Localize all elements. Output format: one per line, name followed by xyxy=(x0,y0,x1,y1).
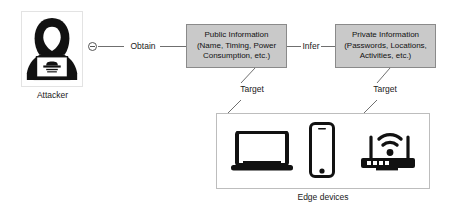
attacker-label: Attacker xyxy=(10,90,95,100)
infer-edge-line-right xyxy=(321,46,335,47)
target-edge-label-left: Target xyxy=(232,84,272,94)
public-information-line-3: Consumption, etc.) xyxy=(197,51,276,62)
wifi-router-icon xyxy=(358,125,418,175)
smartphone-icon xyxy=(309,122,335,178)
laptop-icon xyxy=(231,131,293,173)
connector-node-icon xyxy=(88,42,97,51)
private-information-line-2: (Passwords, Locations, xyxy=(344,41,427,52)
private-information-node: Private Information (Passwords, Location… xyxy=(335,24,436,68)
diagram-canvas: Attacker Obtain Public Information (Name… xyxy=(0,0,463,214)
edge-devices-label: Edge devices xyxy=(253,192,393,202)
private-information-line-1: Private Information xyxy=(344,30,427,41)
hooded-attacker-with-laptop-icon xyxy=(21,11,83,87)
private-information-line-3: Activities, etc.) xyxy=(344,51,427,62)
public-information-line-2: (Name, Timing, Power xyxy=(197,41,276,52)
public-information-line-1: Public Information xyxy=(197,30,276,41)
obtain-edge-line-right xyxy=(160,46,186,47)
target-edge-label-right: Target xyxy=(365,84,405,94)
public-information-node: Public Information (Name, Timing, Power … xyxy=(186,24,287,68)
